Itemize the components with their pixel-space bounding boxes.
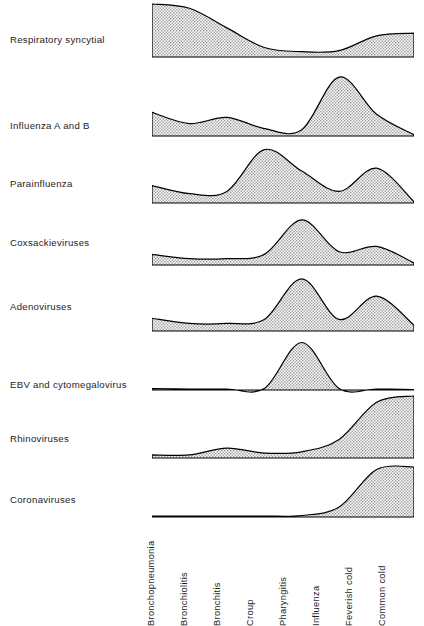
series-label-ebv-and-cytomegalovirus: EBV and cytomegalovirus bbox=[10, 379, 144, 390]
series-label-rhinoviruses: Rhinoviruses bbox=[10, 433, 144, 444]
virus-syndrome-area-chart-figure: Respiratory syncytial Influenza A and B … bbox=[0, 0, 424, 626]
x-axis-label-pharyngitis: Pharyngitis bbox=[278, 577, 288, 626]
x-axis-label-feverish-cold: Feverish cold bbox=[344, 567, 354, 626]
series-plot-parainfluenza bbox=[152, 149, 414, 203]
series-plot-rhinoviruses bbox=[152, 396, 414, 458]
series-label-influenza-a-and-b: Influenza A and B bbox=[10, 120, 144, 131]
x-axis-label-influenza: Influenza bbox=[311, 586, 321, 626]
plots-canvas bbox=[152, 0, 414, 520]
series-plot-influenza-a-and-b bbox=[152, 77, 414, 136]
x-axis-labels: Bronchopneumonia Bronchiolitis Bronchiti… bbox=[152, 523, 414, 626]
x-axis-label-bronchopneumonia: Bronchopneumonia bbox=[146, 541, 156, 626]
x-axis-label-bronchitis: Bronchitis bbox=[212, 582, 222, 626]
x-axis-label-common-cold: Common cold bbox=[377, 565, 387, 626]
series-label-coxsackieviruses: Coxsackieviruses bbox=[10, 237, 144, 248]
series-label-coronaviruses: Coronaviruses bbox=[10, 494, 144, 505]
series-plot-coxsackieviruses bbox=[152, 220, 414, 265]
series-plot-respiratory-syncytial bbox=[152, 4, 414, 57]
series-plot-coronaviruses bbox=[152, 466, 414, 517]
series-plot-adenoviruses bbox=[152, 279, 414, 331]
x-axis-label-bronchiolitis: Bronchiolitis bbox=[179, 572, 189, 626]
x-axis-label-croup: Croup bbox=[245, 599, 255, 626]
series-label-respiratory-syncytial: Respiratory syncytial bbox=[10, 34, 144, 45]
series-plot-ebv-and-cytomegalovirus bbox=[152, 343, 414, 393]
series-label-parainfluenza: Parainfluenza bbox=[10, 178, 144, 189]
series-label-adenoviruses: Adenoviruses bbox=[10, 301, 144, 312]
